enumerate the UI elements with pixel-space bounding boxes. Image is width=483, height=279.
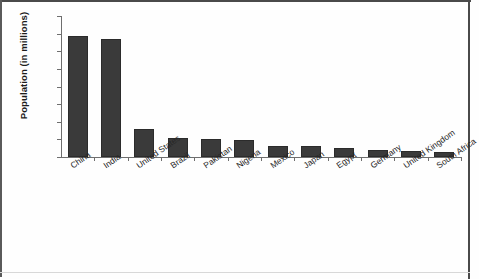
x-tick — [428, 157, 429, 161]
y-tick — [57, 122, 61, 123]
x-tick — [128, 157, 129, 161]
bar — [101, 39, 121, 157]
y-tick — [57, 69, 61, 70]
page-border-bottom — [0, 272, 470, 273]
page-margin-right — [479, 0, 483, 279]
x-tick — [194, 157, 195, 161]
y-tick — [57, 16, 61, 17]
y-tick — [57, 157, 61, 158]
page-frame: Population (in millions) 020040060080010… — [0, 0, 483, 279]
bar-chart: Population (in millions) 020040060080010… — [0, 0, 470, 272]
x-tick — [161, 157, 162, 161]
x-tick — [328, 157, 329, 161]
plot-area: 02004006008001000120014001600 — [61, 16, 461, 157]
y-tick — [57, 87, 61, 88]
bar — [68, 36, 88, 157]
x-tick — [228, 157, 229, 161]
x-tick — [361, 157, 362, 161]
y-tick — [57, 34, 61, 35]
y-axis-line — [61, 16, 62, 157]
y-tick — [57, 139, 61, 140]
x-tick — [294, 157, 295, 161]
y-axis-title: Population (in millions) — [18, 0, 29, 136]
y-tick — [57, 104, 61, 105]
x-tick — [261, 157, 262, 161]
y-tick — [57, 51, 61, 52]
x-tick — [94, 157, 95, 161]
x-tick — [394, 157, 395, 161]
x-tick — [461, 157, 462, 161]
